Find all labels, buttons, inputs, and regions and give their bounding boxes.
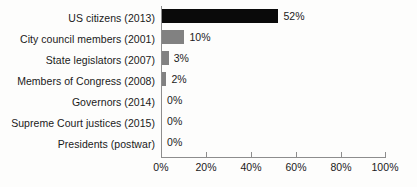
bar-value-label: 2%: [171, 73, 186, 85]
x-axis-tick: [385, 152, 386, 157]
category-axis-labels: US citizens (2013) City council members …: [0, 0, 155, 160]
bar-value-label: 0%: [167, 136, 182, 148]
x-axis-tick: [161, 152, 162, 157]
category-label: State legislators (2007): [0, 54, 155, 66]
bar-value-label: 0%: [167, 94, 182, 106]
plot-area: 0% 20% 40% 60% 80% 100% 52% 10% 3% 2% 0%…: [161, 0, 386, 160]
x-axis-tick: [341, 152, 342, 157]
category-label: City council members (2001): [0, 33, 155, 45]
category-label: Presidents (postwar): [0, 138, 155, 150]
category-label: Governors (2014): [0, 96, 155, 108]
bar-chart: US citizens (2013) City council members …: [0, 0, 417, 187]
x-axis-tick-label: 20%: [195, 161, 216, 173]
category-label: US citizens (2013): [0, 12, 155, 24]
bar: [162, 51, 169, 65]
bar-value-label: 52%: [283, 10, 304, 22]
bar-value-label: 3%: [174, 52, 189, 64]
bar: [162, 72, 166, 86]
x-axis-tick: [251, 152, 252, 157]
x-axis-tick-label: 100%: [371, 161, 398, 173]
category-label: Supreme Court justices (2015): [0, 117, 155, 129]
bar-value-label: 10%: [189, 31, 210, 43]
x-axis-tick-label: 0%: [153, 161, 168, 173]
x-axis-tick: [206, 152, 207, 157]
x-axis-tick-label: 60%: [285, 161, 306, 173]
x-axis-tick-label: 40%: [240, 161, 261, 173]
x-axis-tick: [296, 152, 297, 157]
x-axis-tick-label: 80%: [330, 161, 351, 173]
bar: [162, 9, 278, 23]
bar: [162, 30, 184, 44]
x-axis-line: [161, 157, 386, 158]
bar-value-label: 0%: [167, 115, 182, 127]
category-label: Members of Congress (2008): [0, 75, 155, 87]
